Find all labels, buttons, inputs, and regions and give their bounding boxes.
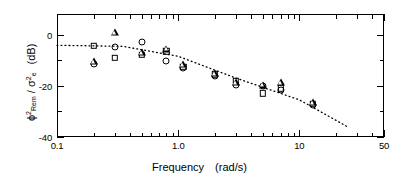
x-axis-tick — [57, 14, 58, 21]
x-axis-title: Frequency(rad/s) — [0, 161, 399, 173]
y-axis-title: ϕ2Rem / σ2e(dB) — [25, 7, 38, 157]
x-axis-tick — [272, 14, 273, 19]
x-axis-tick — [251, 133, 252, 138]
triangle-marker-icon — [232, 78, 240, 85]
x-axis-tick — [281, 133, 282, 138]
data-point-square — [112, 54, 118, 60]
x-axis-tick — [142, 14, 143, 19]
x-axis-tick — [299, 14, 300, 21]
square-marker-icon — [112, 54, 118, 60]
data-point-triangle — [111, 28, 119, 35]
data-point-triangle — [259, 81, 267, 88]
x-axis-tick — [159, 14, 160, 19]
x-axis-tick — [294, 14, 295, 19]
x-axis-tick — [173, 14, 174, 19]
y-axis-tick — [380, 111, 385, 112]
x-axis-tick — [236, 133, 237, 138]
x-axis-tick — [299, 130, 300, 137]
x-axis-tick — [215, 14, 216, 19]
data-point-triangle — [138, 49, 146, 56]
x-axis-tick — [178, 14, 179, 21]
circle-marker-icon — [163, 58, 170, 65]
x-axis-tick — [94, 133, 95, 138]
x-axis-tick — [288, 14, 289, 19]
figure-scatter-plot: 0.11.010500-20-40 — [0, 0, 399, 183]
x-axis-tick — [94, 14, 95, 19]
x-axis-tick — [336, 133, 337, 138]
circle-marker-icon — [138, 39, 145, 46]
triangle-marker-icon — [211, 69, 219, 76]
x-axis-tick — [357, 14, 358, 19]
data-point-triangle — [309, 99, 317, 106]
y-axis-tick — [57, 60, 62, 61]
data-point-triangle — [232, 78, 240, 85]
x-axis-tick — [288, 133, 289, 138]
y-axis-tick — [380, 60, 385, 61]
x-axis-tick — [173, 133, 174, 138]
x-tick-label: 50 — [379, 140, 389, 151]
triangle-marker-icon — [111, 28, 119, 35]
x-tick-label: 10 — [294, 140, 304, 151]
x-axis-tick — [263, 14, 264, 19]
x-axis-tick — [236, 14, 237, 19]
y-axis-tick — [57, 137, 64, 138]
x-axis-tick — [251, 14, 252, 19]
y-axis-tick — [377, 137, 384, 138]
x-tick-label: 1.0 — [172, 140, 185, 151]
y-axis-tick — [377, 86, 384, 87]
x-axis-tick — [115, 14, 116, 19]
data-point-triangle — [90, 58, 98, 65]
data-point-square — [260, 90, 266, 96]
square-marker-icon — [260, 90, 266, 96]
x-axis-tick — [384, 14, 385, 21]
y-axis-tick — [57, 111, 62, 112]
triangle-marker-icon — [162, 45, 170, 52]
triangle-marker-icon — [309, 99, 317, 106]
x-axis-tick — [151, 14, 152, 19]
x-axis-title-main: Frequency — [152, 161, 204, 173]
x-axis-tick — [142, 133, 143, 138]
data-point-circle — [163, 58, 170, 65]
data-point-triangle — [162, 45, 170, 52]
x-axis-tick — [178, 130, 179, 137]
data-point-triangle — [179, 61, 187, 68]
x-axis-tick — [166, 14, 167, 19]
triangle-marker-icon — [138, 49, 146, 56]
data-point-triangle — [211, 69, 219, 76]
x-axis-tick — [281, 14, 282, 19]
x-axis-tick — [357, 133, 358, 138]
data-point-triangle — [277, 78, 285, 85]
circle-marker-icon — [111, 44, 118, 51]
square-marker-icon — [90, 43, 96, 49]
plot-area — [57, 14, 384, 137]
x-axis-tick — [130, 14, 131, 19]
x-axis-tick — [115, 133, 116, 138]
triangle-marker-icon — [179, 61, 187, 68]
y-axis-title-text: ϕ2Rem / σ2e(dB) — [25, 44, 37, 121]
x-axis-tick — [372, 133, 373, 138]
x-axis-tick — [372, 14, 373, 19]
triangle-marker-icon — [259, 81, 267, 88]
x-tick-label: 0.1 — [51, 140, 64, 151]
x-axis-tick — [151, 133, 152, 138]
x-axis-tick — [166, 133, 167, 138]
triangle-marker-icon — [277, 78, 285, 85]
y-axis-tick — [57, 86, 64, 87]
x-axis-tick — [384, 130, 385, 137]
x-axis-tick — [294, 133, 295, 138]
x-axis-tick — [336, 14, 337, 19]
y-axis-tick — [377, 35, 384, 36]
x-axis-tick — [57, 130, 58, 137]
x-axis-tick — [263, 133, 264, 138]
data-point-circle — [277, 86, 284, 93]
y-axis-tick — [57, 35, 64, 36]
x-axis-tick — [159, 133, 160, 138]
x-axis-title-units: (rad/s) — [215, 161, 247, 173]
data-point-circle — [111, 44, 118, 51]
data-point-circle — [138, 39, 145, 46]
x-axis-tick — [272, 133, 273, 138]
x-axis-tick — [130, 133, 131, 138]
data-point-square — [90, 43, 96, 49]
triangle-marker-icon — [90, 58, 98, 65]
x-axis-tick — [215, 133, 216, 138]
